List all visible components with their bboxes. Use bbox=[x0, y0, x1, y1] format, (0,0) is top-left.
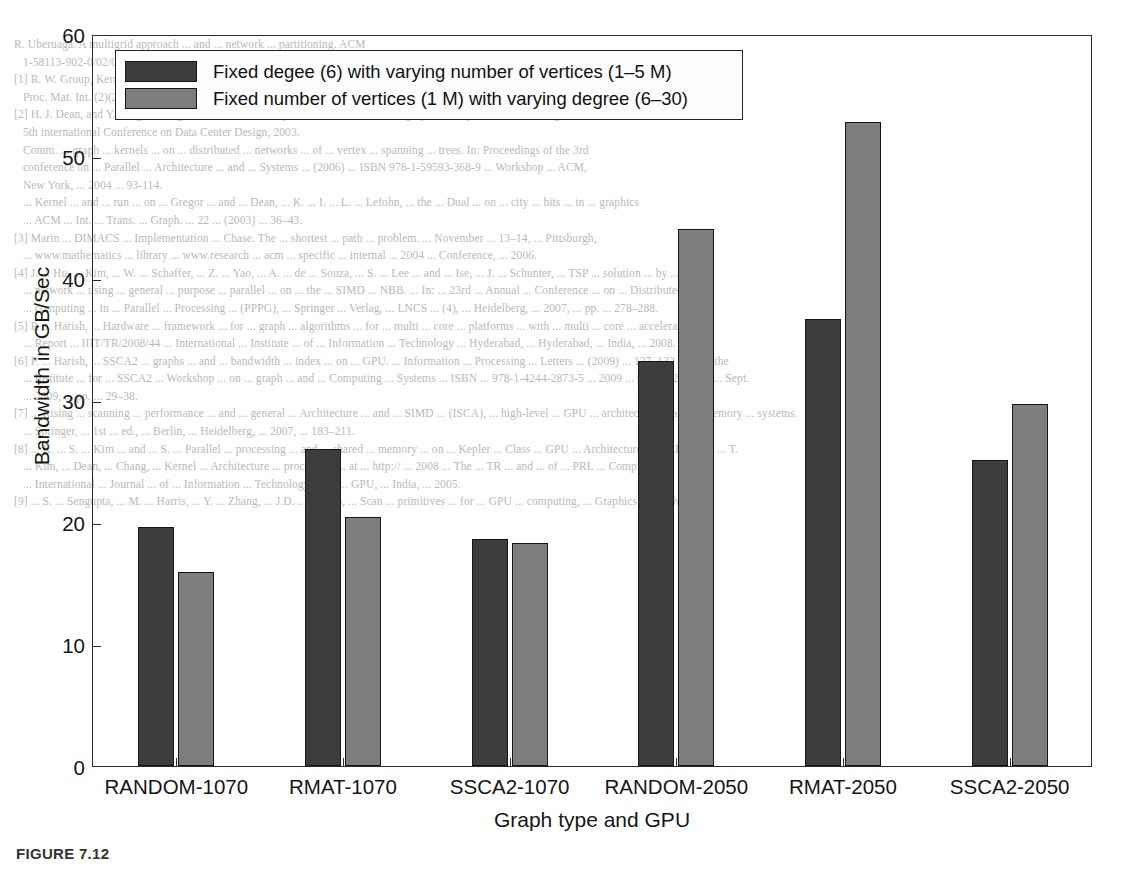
y-tick-label: 30 bbox=[62, 390, 85, 414]
bar bbox=[472, 539, 508, 766]
x-axis-title: Graph type and GPU bbox=[92, 808, 1092, 832]
y-tick-label: 50 bbox=[62, 146, 85, 170]
x-tick-label: RMAT-1070 bbox=[289, 775, 397, 799]
y-tick-mark bbox=[93, 524, 101, 525]
y-tick-mark bbox=[93, 280, 101, 281]
x-tick-mark bbox=[510, 758, 511, 766]
bar bbox=[305, 449, 341, 766]
y-tick-label: 60 bbox=[62, 24, 85, 48]
x-tick-mark bbox=[676, 758, 677, 766]
bar bbox=[805, 319, 841, 766]
figure-container: Bandwidth in GB/Sec 0102030405060 RANDOM… bbox=[0, 0, 1139, 877]
y-tick-label: 0 bbox=[74, 756, 85, 780]
x-tick-mark bbox=[1010, 758, 1011, 766]
bar bbox=[138, 527, 174, 766]
y-tick-mark bbox=[93, 158, 101, 159]
legend-item: Fixed degee (6) with varying number of v… bbox=[125, 58, 732, 85]
x-tick-label: SSCA2-2050 bbox=[950, 775, 1070, 799]
x-tick-mark bbox=[343, 758, 344, 766]
legend-swatch-light-icon bbox=[125, 88, 197, 109]
bar bbox=[845, 122, 881, 766]
y-tick-label: 10 bbox=[62, 634, 85, 658]
y-tick-label: 20 bbox=[62, 512, 85, 536]
y-axis-title: Bandwidth in GB/Sec bbox=[30, 0, 54, 732]
legend-swatch-dark-icon bbox=[125, 61, 197, 82]
plot-area: 0102030405060 RANDOM-1070RMAT-1070SSCA2-… bbox=[92, 35, 1092, 767]
bars-layer bbox=[93, 36, 1091, 766]
legend-label: Fixed degee (6) with varying number of v… bbox=[213, 61, 672, 83]
x-tick-label: RANDOM-2050 bbox=[605, 775, 749, 799]
bar bbox=[345, 517, 381, 766]
bar bbox=[678, 229, 714, 766]
bar bbox=[178, 572, 214, 766]
bar bbox=[1012, 404, 1048, 766]
x-tick-label: SSCA2-1070 bbox=[450, 775, 570, 799]
bar bbox=[638, 361, 674, 766]
chart-legend: Fixed degee (6) with varying number of v… bbox=[115, 50, 743, 120]
x-tick-mark bbox=[176, 758, 177, 766]
legend-label: Fixed number of vertices (1 M) with vary… bbox=[213, 88, 688, 110]
x-tick-label: RMAT-2050 bbox=[789, 775, 897, 799]
bar bbox=[512, 543, 548, 766]
bar bbox=[972, 460, 1008, 766]
y-tick-label: 40 bbox=[62, 268, 85, 292]
y-tick-mark bbox=[93, 402, 101, 403]
y-tick-mark bbox=[93, 646, 101, 647]
figure-caption: FIGURE 7.12 bbox=[16, 845, 109, 862]
x-tick-label: RANDOM-1070 bbox=[105, 775, 249, 799]
legend-item: Fixed number of vertices (1 M) with vary… bbox=[125, 85, 732, 112]
x-tick-mark bbox=[843, 758, 844, 766]
